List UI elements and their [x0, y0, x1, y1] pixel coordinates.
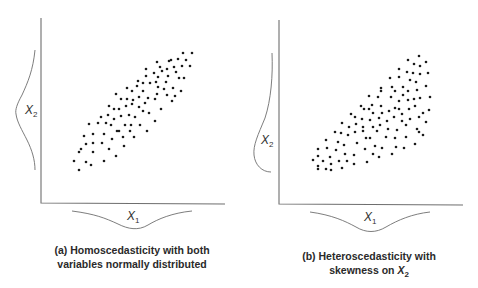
scatter-point [145, 68, 148, 71]
scatter-point [160, 108, 163, 111]
scatter-point [167, 75, 170, 78]
scatter-point [108, 105, 111, 108]
scatter-point [409, 118, 412, 121]
scatter-point [387, 128, 390, 131]
scatter-point [156, 93, 159, 96]
scatter-point [390, 96, 393, 99]
scatter-point [361, 118, 364, 121]
scatter-point [385, 136, 388, 139]
scatter-point [418, 116, 421, 119]
scatter-point [368, 95, 371, 98]
scatter-point [129, 130, 132, 133]
scatter-point [144, 102, 147, 105]
scatter-point [185, 59, 188, 62]
panel-a-caption-line2: variables normally distributed [20, 258, 244, 272]
scatter-point [317, 148, 320, 151]
panel-b-y-label: X2 [260, 133, 274, 149]
scatter-point [374, 145, 377, 148]
scatter-point [356, 142, 359, 145]
scatter-point [178, 77, 181, 80]
scatter-point [133, 136, 136, 139]
scatter-point [398, 68, 401, 71]
panel-a-y-label: X2 [24, 103, 38, 119]
scatter-point [88, 123, 91, 126]
scatter-point [405, 136, 408, 139]
scatter-point [391, 153, 394, 156]
scatter-point [412, 72, 415, 75]
scatter-point [154, 98, 157, 101]
scatter-point [174, 95, 177, 98]
scatter-point [130, 124, 133, 127]
scatter-point [149, 82, 152, 85]
scatter-point [391, 86, 394, 89]
scatter-point [159, 66, 162, 69]
scatter-point [422, 112, 425, 115]
scatter-point [126, 87, 129, 90]
scatter-point [405, 124, 408, 127]
panel-b-caption-line2: skewness on X2 [257, 264, 478, 282]
scatter-point [398, 76, 401, 79]
scatter-point [394, 90, 397, 93]
scatter-point [163, 88, 166, 91]
scatter-point [138, 96, 141, 99]
scatter-point [154, 120, 157, 123]
panel-b-caption-prefix: skewness on [329, 264, 397, 276]
scatter-point [142, 110, 145, 113]
scatter-point [166, 68, 169, 71]
scatter-point [407, 59, 410, 62]
panel-b-caption-line1: (b) Heteroscedasticity with [257, 250, 478, 264]
panel-a-axes [41, 18, 225, 204]
scatter-point [335, 149, 338, 152]
scatter-point [138, 106, 141, 109]
scatter-point [183, 77, 186, 80]
scatter-point [97, 122, 100, 125]
scatter-point [175, 71, 178, 74]
scatter-point [146, 130, 149, 133]
scatter-point [380, 87, 383, 90]
scatter-point [427, 72, 430, 75]
scatter-point [103, 160, 106, 163]
scatter-point [362, 126, 365, 129]
scatter-point [326, 147, 329, 150]
scatter-point [317, 168, 320, 171]
scatter-point [394, 107, 397, 110]
scatter-point [92, 142, 95, 145]
scatter-point [101, 142, 104, 145]
scatter-point [334, 131, 337, 134]
scatter-point [115, 155, 118, 158]
panel-a: X2 X1 [16, 18, 225, 229]
scatter-point [369, 119, 372, 122]
scatter-point [156, 61, 159, 64]
scatter-point [189, 65, 192, 68]
scatter-point [406, 71, 409, 74]
scatter-point [344, 153, 347, 156]
scatter-point [165, 81, 168, 84]
scatter-point [168, 60, 171, 63]
scatter-point [380, 90, 383, 93]
scatter-point [419, 65, 422, 68]
panel-b-caption: (b) Heteroscedasticity with skewness on … [257, 250, 478, 281]
scatter-point [372, 112, 375, 115]
scatter-point [428, 109, 431, 112]
scatter-point [155, 81, 158, 84]
scatter-point [181, 65, 184, 68]
panel-b-axes [279, 20, 463, 205]
scatter-point [401, 120, 404, 123]
scatter-point [413, 98, 416, 101]
scatter-point [122, 136, 125, 139]
scatter-point [338, 160, 341, 163]
scatter-point [422, 134, 425, 137]
scatter-point [139, 124, 142, 127]
scatter-point [429, 96, 432, 99]
scatter-point [348, 126, 351, 129]
scatter-point [180, 90, 183, 93]
scatter-point [378, 156, 381, 159]
scatter-point [381, 147, 384, 150]
scatter-point [83, 135, 86, 138]
scatter-point [372, 153, 375, 156]
scatter-point [317, 155, 320, 158]
scatter-point [330, 169, 333, 172]
scatter-point [354, 131, 357, 134]
scatter-point [362, 130, 365, 133]
panel-a-x-label: X1 [126, 209, 140, 225]
